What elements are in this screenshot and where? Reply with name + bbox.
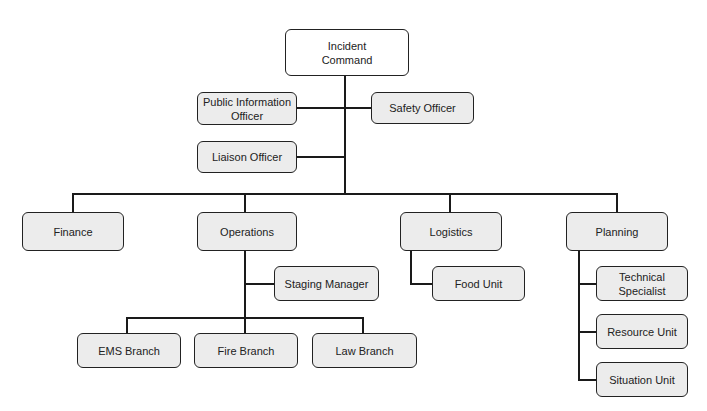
connector-planning [616, 193, 618, 213]
node-operations: Operations [197, 212, 297, 251]
connector-sections-bus [72, 193, 618, 195]
connector-logistics-trunk [410, 251, 412, 285]
node-incident-command: Incident Command [285, 29, 409, 76]
connector-root-trunk [344, 76, 346, 194]
connector-finance [72, 193, 74, 213]
connector-planning-trunk [578, 251, 580, 381]
node-public-information-officer: Public Information Officer [197, 92, 297, 125]
connector-ops-trunk [244, 251, 246, 334]
node-food-unit: Food Unit [432, 266, 525, 301]
connector-food [410, 283, 433, 285]
node-planning: Planning [566, 212, 668, 251]
node-safety-officer: Safety Officer [371, 92, 474, 124]
node-fire-branch: Fire Branch [194, 333, 298, 368]
connector-technical [578, 283, 597, 285]
node-logistics: Logistics [400, 212, 502, 251]
connector-ems [126, 317, 128, 334]
connector-branches-bus [126, 317, 364, 319]
org-chart: Incident Command Public Information Offi… [0, 0, 707, 411]
node-liaison-officer: Liaison Officer [197, 141, 297, 173]
node-law-branch: Law Branch [312, 333, 417, 368]
connector-operations [244, 193, 246, 213]
connector-liaison [296, 156, 346, 158]
connector-resource [578, 331, 597, 333]
node-resource-unit: Resource Unit [596, 314, 688, 349]
connector-law [362, 317, 364, 334]
connector-pio-safety [296, 107, 372, 109]
node-finance: Finance [22, 212, 124, 251]
node-situation-unit: Situation Unit [596, 362, 688, 397]
connector-staging [244, 283, 275, 285]
connector-situation [578, 379, 597, 381]
connector-logistics [449, 193, 451, 213]
node-staging-manager: Staging Manager [274, 266, 379, 301]
node-ems-branch: EMS Branch [77, 333, 181, 368]
node-technical-specialist: Technical Specialist [596, 266, 688, 301]
